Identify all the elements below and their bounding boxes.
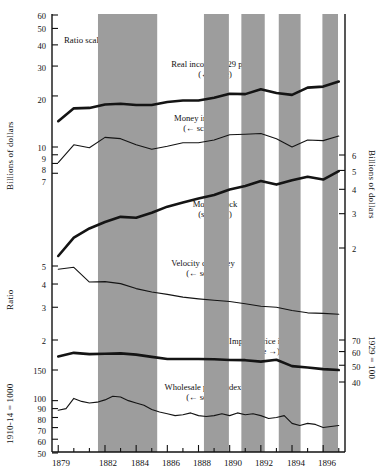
- recession-band-5: [322, 14, 338, 452]
- recession-band-2: [204, 14, 229, 452]
- recession-band-1: [98, 14, 157, 452]
- recession-band-4: [279, 14, 301, 452]
- recession-band-3: [241, 14, 264, 452]
- chart-figure: Billions of dollars Ratio 1910-14 = 1000…: [0, 0, 383, 475]
- plot-canvas: [0, 0, 383, 475]
